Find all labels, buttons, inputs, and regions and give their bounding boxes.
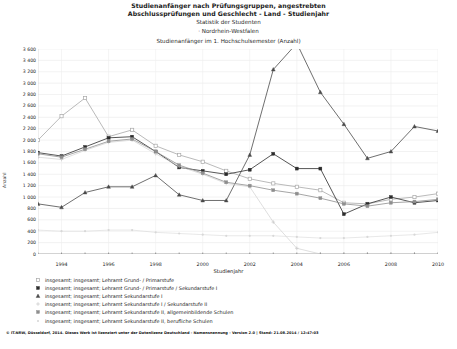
data-point-square-grey [366, 205, 369, 208]
data-point-square-grey [107, 140, 110, 143]
legend-item[interactable]: insgesamt; insgesamt; Lehramt Sekundarst… [33, 292, 453, 300]
data-point-square-open [178, 153, 181, 156]
data-point-square-filled [107, 136, 110, 139]
data-point-dot-light [413, 234, 415, 236]
data-point-dot-light [319, 237, 321, 239]
y-tick-label: 2 000 [4, 138, 36, 143]
y-tick-label: 800 [4, 206, 36, 211]
data-point-square-open [319, 189, 322, 192]
data-point-square-open [225, 169, 228, 172]
data-point-square-open [201, 160, 204, 163]
data-point-square-filled [389, 196, 392, 199]
data-point-square-open [295, 185, 298, 188]
x-tick-label: 2008 [385, 262, 397, 267]
legend-item-label: insgesamt; insgesamt; Lehramt Sekundarst… [45, 317, 213, 325]
y-tick-label: 2 400 [4, 115, 36, 120]
legend-marker-dot-light-icon [33, 317, 45, 325]
data-point-square-grey [413, 200, 416, 203]
data-point-dot-light [249, 235, 251, 237]
data-point-square-open [60, 115, 63, 118]
legend-marker-triangle-filled-icon [33, 292, 45, 300]
data-point-triangle-filled [36, 294, 40, 298]
data-point-square-open [38, 139, 40, 142]
x-tick-label: 2010 [432, 262, 444, 267]
data-point-triangle-filled [248, 153, 252, 157]
legend-marker-square-filled-icon [33, 284, 45, 292]
data-point-dot-light [343, 237, 345, 239]
y-tick-label: 600 [4, 217, 36, 222]
chart-subtitle-line2: · Nordrhein-Westfalen [0, 28, 457, 35]
legend-item[interactable]: insgesamt; insgesamt; Lehramt Sekundarst… [33, 300, 453, 308]
x-axis-title: Studienjahr [0, 268, 457, 274]
y-tick-label: 1 200 [4, 183, 36, 188]
data-point-dot-light [390, 235, 392, 237]
legend-item[interactable]: insgesamt; insgesamt; Lehramt Sekundarst… [33, 316, 453, 324]
data-point-square-grey [272, 189, 275, 192]
data-point-square-grey [389, 201, 392, 204]
data-point-square-filled [37, 287, 40, 290]
data-point-square-open [272, 182, 275, 185]
data-point-dot-light [272, 235, 274, 237]
data-point-triangle-filled [38, 202, 40, 206]
data-point-square-grey [437, 198, 439, 201]
chart-legend: insgesamt; insgesamt; Lehramt Grund- / P… [33, 276, 453, 325]
data-point-square-grey [248, 184, 251, 187]
data-point-square-filled [342, 213, 345, 216]
y-tick-label: 2 800 [4, 92, 36, 97]
data-point-plus [38, 155, 40, 159]
chart-subtitle-line1: Statistik der Studenten [0, 19, 457, 26]
data-point-dot-light [38, 229, 39, 231]
x-tick-label: 2002 [244, 262, 256, 267]
data-point-square-filled [319, 167, 322, 170]
legend-marker-plus-icon [33, 300, 45, 308]
series-5 [38, 229, 438, 239]
data-point-dot-light [202, 234, 204, 236]
y-tick-label: 1 800 [4, 149, 36, 154]
x-tick-label: 2004 [291, 262, 303, 267]
data-point-square-open [248, 177, 251, 180]
data-point-dot-light [296, 236, 298, 238]
y-axis-ticks: 02004006008001 0001 2001 4001 6001 8002 … [0, 46, 36, 258]
legend-item[interactable]: insgesamt; insgesamt; Lehramt Grund- / P… [33, 276, 453, 284]
chart-title-line1: Studienanfänger nach Prüfungsgruppen, an… [0, 2, 457, 10]
y-tick-label: 2 200 [4, 126, 36, 131]
line-chart-svg [38, 49, 438, 254]
data-point-square-grey [295, 192, 298, 195]
data-point-square-filled [225, 173, 228, 176]
data-point-square-open [83, 96, 86, 99]
data-point-dot-light [178, 232, 180, 234]
y-tick-label: 3 400 [4, 58, 36, 63]
legend-item-label: insgesamt; insgesamt; Lehramt Grund- / P… [45, 276, 174, 284]
chart-page: Studienanfänger nach Prüfungsgruppen, an… [0, 0, 457, 349]
legend-item-label: insgesamt; insgesamt; Lehramt Sekundarst… [45, 292, 163, 300]
data-point-square-open [436, 192, 438, 195]
plot-area: Anzahl [0, 46, 457, 258]
legend-marker-square-grey-icon [33, 308, 45, 316]
legend-item[interactable]: insgesamt; insgesamt; Lehramt Sekundarst… [33, 308, 453, 316]
y-tick-label: 3 600 [4, 47, 36, 52]
x-tick-label: 2000 [197, 262, 209, 267]
data-point-triangle-filled [413, 124, 417, 128]
data-point-square-grey [60, 156, 63, 159]
legend-marker-square-open-icon [33, 276, 45, 284]
footer-copyright: © IT.NRW, Düsseldorf, 2014. Dieses Werk … [6, 331, 318, 335]
chart-title-line2: Abschlussprüfungen und Geschlecht - Land… [0, 10, 457, 18]
legend-item[interactable]: insgesamt; insgesamt; Lehramt Grund- / P… [33, 284, 453, 292]
y-tick-label: 1 000 [4, 195, 36, 200]
y-tick-label: 3 000 [4, 81, 36, 86]
data-point-square-grey [84, 148, 87, 151]
data-point-square-grey [342, 202, 345, 205]
data-point-square-grey [201, 172, 204, 175]
legend-item-label: insgesamt; insgesamt; Lehramt Sekundarst… [45, 300, 207, 308]
data-point-square-filled [248, 168, 251, 171]
data-point-square-grey [38, 152, 40, 155]
data-point-square-open [131, 128, 134, 131]
data-point-square-filled [272, 152, 275, 155]
data-point-square-grey [178, 164, 181, 167]
data-point-plus [36, 303, 40, 307]
data-point-dot-light [155, 231, 157, 233]
data-point-square-grey [154, 150, 157, 153]
data-point-dot-light [131, 229, 133, 231]
x-tick-label: 2006 [338, 262, 350, 267]
y-tick-label: 200 [4, 240, 36, 245]
